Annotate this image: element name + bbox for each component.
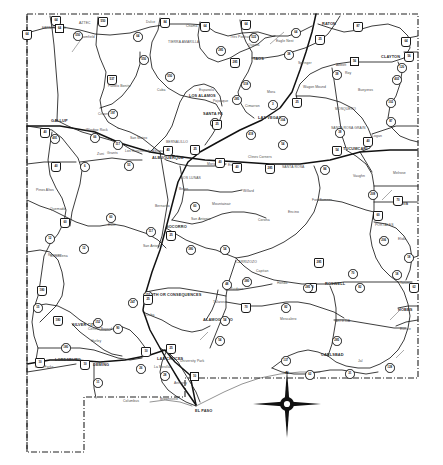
city-label: Mountainair	[212, 203, 231, 206]
highway-marker-shield: 60	[60, 218, 70, 228]
city-label: Ruidoso	[230, 288, 243, 291]
city-label: Abbott	[336, 64, 346, 67]
highway-marker-circle: 18	[392, 270, 402, 280]
city-label: Tres Piedras	[230, 36, 250, 39]
highway-marker-circle: 64	[133, 32, 143, 42]
city-label: CLAYTON	[381, 55, 400, 59]
city-label: TAOS	[253, 57, 264, 61]
city-label: Brownsville	[160, 398, 178, 401]
city-label: Zuni	[97, 153, 104, 156]
compass-rose	[253, 370, 321, 438]
highway-marker-circle: 84	[320, 165, 330, 175]
highway-marker-circle: 550	[73, 31, 83, 41]
highway-marker-circle: 522	[249, 33, 259, 43]
highway-marker-circle: 285	[232, 95, 242, 105]
city-label: LORDSBURG	[55, 358, 81, 362]
city-label: Clines Corners	[248, 156, 272, 159]
city-label: Vaughn	[353, 175, 365, 178]
highway-marker-shield: 25	[166, 231, 176, 241]
highway-marker-circle: 550	[165, 72, 175, 82]
highway-marker-circle: 39	[335, 128, 345, 138]
compass-north-label: N	[286, 370, 289, 375]
city-label: San Antonio	[143, 245, 162, 248]
highway-marker-circle: 12	[45, 234, 55, 244]
highway-marker-shield: 25	[143, 295, 153, 305]
city-label: SANTA FE	[203, 112, 223, 116]
highway-marker-shield: 25	[166, 344, 176, 354]
highway-marker-circle: 64	[291, 28, 301, 38]
city-label: Corona	[258, 219, 270, 222]
highway-marker-circle: 120	[397, 63, 407, 73]
highway-marker-circle: 285	[216, 46, 226, 56]
highway-marker-shield: 550	[98, 17, 108, 27]
city-label: University Park	[180, 360, 204, 363]
highway-marker-circle: 285	[303, 283, 313, 293]
city-label: Eagle Nest	[276, 40, 294, 43]
city-label: Belen	[179, 188, 188, 191]
new-mexico-highway-map: .road{fill:none;stroke:#1a1a1a;stroke-wi…	[0, 0, 443, 465]
highway-marker-circle: 12	[79, 244, 89, 254]
label-leader-lines	[72, 32, 404, 358]
highway-marker-shield: 285	[230, 58, 240, 68]
highway-marker-shield: 64	[200, 22, 210, 32]
highway-marker-shield: 10	[35, 358, 45, 368]
highway-marker-circle: 380	[186, 245, 196, 255]
city-label: CARRIZOZO	[236, 261, 257, 264]
highway-marker-circle: 48	[222, 280, 232, 290]
highway-marker-circle: 54	[220, 245, 230, 255]
highway-marker-shield: 64	[401, 37, 411, 47]
city-label: Wagon Mound	[303, 86, 326, 89]
highway-marker-circle: 197	[108, 109, 118, 119]
highway-marker-circle: 152	[93, 318, 103, 328]
city-label: Elida	[398, 238, 406, 241]
city-label: AZTEC	[79, 22, 91, 25]
highway-marker-square: 10	[190, 372, 199, 381]
highway-marker-circle: 491	[50, 134, 60, 144]
highway-marker-shield: 180	[53, 316, 63, 326]
highway-marker-circle: 31	[345, 369, 355, 379]
roads-central	[143, 84, 412, 348]
highway-marker-shield: 62	[409, 283, 419, 293]
city-label: Pojoaque	[213, 100, 228, 103]
map-graphics-layer: .road{fill:none;stroke:#1a1a1a;stroke-wi…	[0, 0, 443, 465]
highway-marker-shield: 25	[190, 145, 200, 155]
city-label: Datil	[108, 224, 115, 227]
roads-east	[272, 150, 418, 374]
highway-marker-shield: 40	[232, 163, 242, 173]
highway-marker-circle: 104	[278, 116, 288, 126]
highway-marker-circle: 11	[93, 378, 103, 388]
highway-marker-circle: 402	[392, 75, 402, 85]
highway-marker-shield: 285	[314, 258, 324, 268]
highway-marker-shield: 10	[80, 360, 90, 370]
highway-marker-circle: 82	[281, 303, 291, 313]
city-label: Jal	[358, 360, 363, 363]
highway-marker-shield: 87	[353, 22, 363, 32]
highway-marker-circle: 15	[33, 303, 43, 313]
city-label: ALBUQUERQUE	[152, 156, 184, 160]
city-label: BERNALILLO	[166, 141, 188, 144]
city-label: Encino	[288, 211, 299, 214]
city-label: ARTESIA	[335, 320, 350, 323]
city-label: LOS ALAMOS	[189, 94, 216, 98]
highway-marker-circle: 54	[278, 140, 288, 150]
highway-marker-shield: 537	[107, 75, 117, 85]
highway-marker-circle: 26	[136, 364, 146, 374]
highway-marker-shield: 25	[315, 35, 325, 45]
city-label: CARLSBAD	[321, 353, 344, 357]
highway-marker-circle: 62	[305, 370, 315, 380]
highway-marker-shield: 54	[332, 146, 342, 156]
city-label: PORTALES	[375, 224, 394, 227]
city-label: Mescalero	[280, 318, 297, 321]
city-label: Magdalena	[50, 255, 68, 258]
city-label: SANTA ROSA	[282, 166, 304, 169]
highway-marker-circle: 66	[90, 133, 100, 143]
highway-marker-shield: 40	[40, 128, 50, 138]
city-label: LOS LUNAS	[181, 177, 201, 180]
highway-marker-shield: 25	[212, 120, 222, 130]
city-label: Bernardo	[155, 205, 170, 208]
city-label: MOSQUERO	[335, 108, 356, 111]
highway-marker-circle: 518	[241, 80, 251, 90]
city-label: Bueyeros	[358, 89, 373, 92]
city-label: Melrose	[393, 172, 406, 175]
highway-marker-shield: 180	[37, 286, 47, 296]
